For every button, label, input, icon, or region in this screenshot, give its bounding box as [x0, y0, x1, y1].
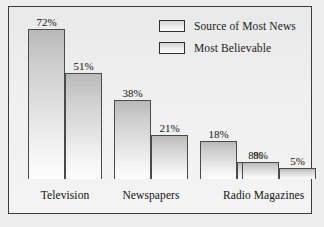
category-label-television: Television [28, 189, 102, 201]
bar-group-bars: 72% 51% [28, 29, 102, 179]
bar-magazines-source [242, 162, 279, 179]
bar-value-label: 38% [114, 87, 151, 100]
bar-value-label: 8% [242, 149, 279, 162]
bar-radio-source [200, 141, 237, 179]
bar-group-newspapers: 38% 21% Newspapers [114, 29, 188, 179]
bar-wrapper: 8% [242, 29, 279, 179]
chart-container: Source of Most News Most Believable 72% … [0, 0, 324, 227]
bar-newspapers-believable [151, 135, 188, 179]
bar-wrapper: 18% [200, 29, 237, 179]
bar-television-source [28, 29, 65, 179]
chart-frame: Source of Most News Most Believable 72% … [8, 6, 312, 214]
bar-value-label: 51% [65, 60, 102, 73]
bar-group-magazines: 8% 5% Magazines [242, 29, 316, 179]
category-label-magazines: Magazines [242, 189, 316, 201]
bar-value-label: 72% [28, 16, 65, 29]
bar-value-label: 21% [151, 122, 188, 135]
bar-value-label: 18% [200, 128, 237, 141]
bar-magazines-believable [279, 168, 316, 179]
bar-wrapper: 51% [65, 29, 102, 179]
bar-group-television: 72% 51% Television [28, 29, 102, 179]
plot-area: 72% 51% Television 38% [22, 19, 301, 205]
bar-wrapper: 21% [151, 29, 188, 179]
bar-group-bars: 8% 5% [242, 29, 316, 179]
bar-television-believable [65, 73, 102, 179]
bar-wrapper: 72% [28, 29, 65, 179]
bar-wrapper: 38% [114, 29, 151, 179]
bar-group-bars: 38% 21% [114, 29, 188, 179]
bar-wrapper: 5% [279, 29, 316, 179]
bar-value-label: 5% [279, 155, 316, 168]
category-label-newspapers: Newspapers [114, 189, 188, 201]
bar-newspapers-source [114, 100, 151, 179]
